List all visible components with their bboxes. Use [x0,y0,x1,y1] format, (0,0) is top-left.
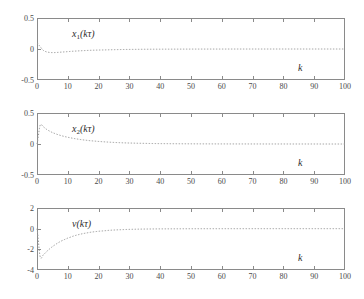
xtick-top-v-10 [68,208,69,212]
xtick-top-v-90 [314,208,315,212]
xtick-label-x1-8: 80 [273,82,293,91]
ytick-label-x1-0: 0.5 [7,14,34,23]
xtick-mark-x1-30 [129,76,130,80]
figure-canvas: 0.5 0 -0.5 0 10 20 30 40 50 60 70 80 90 … [0,0,364,299]
xtick-top-v-80 [283,208,284,212]
xtick-top-x1-30 [129,18,130,22]
ytick-label-x2-0: 0.5 [7,109,34,118]
xtick-mark-v-90 [314,266,315,270]
xtick-mark-x2-70 [253,171,254,175]
xtick-mark-x2-10 [68,171,69,175]
xtick-top-v-50 [191,208,192,212]
xtick-mark-x1-70 [253,76,254,80]
xtick-top-x2-40 [160,113,161,117]
xtick-top-x1-40 [160,18,161,22]
xtick-label-x2-5: 50 [181,177,201,186]
xtick-mark-v-70 [253,266,254,270]
xtick-mark-x1-60 [222,76,223,80]
xtick-mark-x2-90 [314,171,315,175]
xtick-mark-v-60 [222,266,223,270]
signal-label-x2: x2(kτ) [72,123,95,136]
xtick-label-x1-0: 0 [27,82,47,91]
xtick-top-x2-10 [68,113,69,117]
xtick-top-x1-10 [68,18,69,22]
signal-label-v: v(kτ) [72,218,91,231]
xaxis-label-v: k [298,252,302,263]
xtick-top-v-40 [160,208,161,212]
ytick-label-x1-1: 0 [7,45,34,54]
xtick-label-v-4: 40 [150,272,170,281]
xtick-mark-v-80 [283,266,284,270]
xtick-label-x2-3: 30 [119,177,139,186]
xtick-mark-x2-60 [222,171,223,175]
ytick-label-x2-1: 0 [7,140,34,149]
xtick-top-v-60 [222,208,223,212]
xtick-mark-x1-80 [283,76,284,80]
signal-arg-x2: (kτ) [80,123,95,134]
xtick-mark-v-40 [160,266,161,270]
xtick-label-x2-2: 20 [89,177,109,186]
xtick-top-x2-60 [222,113,223,117]
xaxis-label-x2: k [298,157,302,168]
plot-panel-x1: 0.5 0 -0.5 0 10 20 30 40 50 60 70 80 90 … [0,4,364,99]
xtick-top-x1-60 [222,18,223,22]
xtick-mark-x2-80 [283,171,284,175]
xtick-top-x2-90 [314,113,315,117]
xtick-mark-x2-50 [191,171,192,175]
xtick-label-v-2: 20 [89,272,109,281]
xtick-label-x1-4: 40 [150,82,170,91]
xtick-label-v-8: 80 [273,272,293,281]
xtick-mark-x2-40 [160,171,161,175]
xtick-label-x1-7: 70 [243,82,263,91]
xtick-label-v-3: 30 [119,272,139,281]
xtick-label-x2-10: 100 [335,177,355,186]
xtick-label-x2-0: 0 [27,177,47,186]
xtick-mark-x2-30 [129,171,130,175]
xtick-top-x2-20 [99,113,100,117]
xtick-label-x1-9: 90 [304,82,324,91]
xtick-label-v-1: 10 [58,272,78,281]
ytick-label-v-1: 0 [7,225,34,234]
xtick-mark-x1-40 [160,76,161,80]
ytick-label-v-0: 2 [7,204,34,213]
signal-label-x1: x1(kτ) [72,28,95,41]
xtick-mark-v-10 [68,266,69,270]
xtick-label-v-10: 100 [335,272,355,281]
xtick-label-x2-7: 70 [243,177,263,186]
xtick-top-x2-50 [191,113,192,117]
ytick-mark-x1-0 [37,49,41,50]
xtick-mark-x1-20 [99,76,100,80]
ytick-label-v-2: -2 [7,245,34,254]
xtick-mark-x1-90 [314,76,315,80]
xtick-label-v-5: 50 [181,272,201,281]
xtick-mark-x2-20 [99,171,100,175]
plot-panel-v: 2 0 -2 -4 0 10 20 30 40 50 60 70 80 90 1… [0,194,364,299]
xtick-label-x1-6: 60 [212,82,232,91]
xtick-top-x1-50 [191,18,192,22]
xtick-top-v-20 [99,208,100,212]
plot-panel-x2: 0.5 0 -0.5 0 10 20 30 40 50 60 70 80 90 … [0,99,364,194]
xtick-label-x2-6: 60 [212,177,232,186]
xtick-label-v-6: 60 [212,272,232,281]
xtick-top-x1-70 [253,18,254,22]
xtick-top-v-70 [253,208,254,212]
xtick-label-x1-5: 50 [181,82,201,91]
xtick-label-x2-4: 40 [150,177,170,186]
xtick-top-x1-80 [283,18,284,22]
xtick-top-x1-90 [314,18,315,22]
xtick-label-v-9: 90 [304,272,324,281]
ytick-mark-v-0 [37,229,41,230]
xtick-label-x1-10: 100 [335,82,355,91]
xtick-mark-v-20 [99,266,100,270]
xtick-label-x2-9: 90 [304,177,324,186]
xtick-top-x2-30 [129,113,130,117]
xtick-label-v-0: 0 [27,272,47,281]
ytick-mark-x2-0 [37,144,41,145]
xaxis-label-x1: k [298,62,302,73]
xtick-top-x1-20 [99,18,100,22]
signal-arg-x1: (kτ) [80,28,95,39]
xtick-label-x1-1: 10 [58,82,78,91]
signal-arg-v: (kτ) [76,218,91,229]
ytick-mark-v-1 [37,249,41,250]
xtick-mark-v-50 [191,266,192,270]
